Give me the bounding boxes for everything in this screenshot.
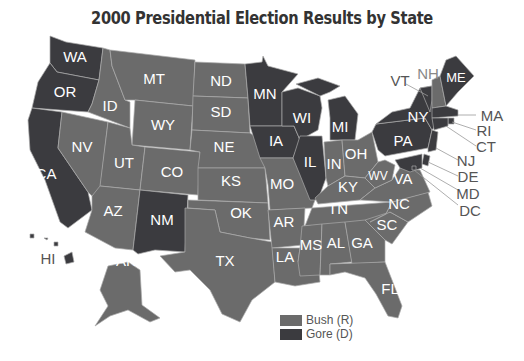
label-WI: WI bbox=[293, 109, 311, 126]
label-NE: NE bbox=[214, 138, 235, 155]
label-NY: NY bbox=[408, 108, 429, 125]
label-MS: MS bbox=[300, 236, 323, 253]
state-DC bbox=[412, 166, 416, 170]
label-IN: IN bbox=[327, 155, 342, 172]
label-WA: WA bbox=[63, 48, 87, 65]
label-NC: NC bbox=[388, 195, 410, 212]
label-TN: TN bbox=[328, 200, 348, 217]
state-MA bbox=[432, 106, 458, 118]
label-AZ: AZ bbox=[103, 202, 122, 219]
label-CO: CO bbox=[161, 163, 184, 180]
label-MT: MT bbox=[143, 70, 165, 87]
legend-item-gore: Gore (D) bbox=[280, 327, 353, 341]
state-RI bbox=[448, 118, 454, 124]
label-ID: ID bbox=[103, 97, 118, 114]
label-NV: NV bbox=[72, 138, 93, 155]
label-KS: KS bbox=[221, 172, 241, 189]
label-MN: MN bbox=[253, 85, 276, 102]
label-OK: OK bbox=[230, 204, 252, 221]
label-FL: FL bbox=[381, 280, 399, 297]
label-ND: ND bbox=[210, 72, 232, 89]
state-DE bbox=[422, 154, 430, 166]
legend-swatch-gore bbox=[280, 329, 302, 340]
label-NJ: NJ bbox=[457, 152, 475, 169]
label-DE: DE bbox=[458, 168, 479, 185]
label-CT: CT bbox=[476, 138, 496, 155]
legend-swatch-bush bbox=[280, 315, 302, 326]
label-OH: OH bbox=[345, 145, 368, 162]
label-SD: SD bbox=[211, 103, 232, 120]
label-IL: IL bbox=[304, 153, 317, 170]
label-PA: PA bbox=[394, 132, 413, 149]
legend: Bush (R) Gore (D) bbox=[280, 313, 353, 341]
legend-label-bush: Bush (R) bbox=[306, 313, 353, 327]
label-GA: GA bbox=[351, 234, 373, 251]
label-VT: VT bbox=[390, 72, 409, 89]
label-OR: OR bbox=[54, 83, 77, 100]
label-NH: NH bbox=[417, 65, 439, 82]
label-AK: AK bbox=[116, 252, 136, 269]
label-WV: WV bbox=[368, 169, 387, 183]
label-VA: VA bbox=[394, 170, 413, 187]
label-LA: LA bbox=[276, 248, 294, 265]
label-TX: TX bbox=[215, 252, 234, 269]
label-AR: AR bbox=[274, 213, 295, 230]
label-KY: KY bbox=[338, 178, 358, 195]
us-map: WA OR CA ID NV MT WY UT CO AZ NM ND SD N… bbox=[0, 0, 524, 361]
label-ME: ME bbox=[446, 70, 466, 85]
label-NM: NM bbox=[150, 211, 173, 228]
legend-label-gore: Gore (D) bbox=[306, 327, 353, 341]
label-DC: DC bbox=[459, 202, 481, 219]
label-MO: MO bbox=[270, 175, 294, 192]
label-WY: WY bbox=[151, 116, 175, 133]
label-MI: MI bbox=[332, 118, 349, 135]
label-RI: RI bbox=[477, 122, 492, 139]
label-CA: CA bbox=[36, 165, 57, 182]
label-AL: AL bbox=[327, 234, 345, 251]
legend-item-bush: Bush (R) bbox=[280, 313, 353, 327]
state-AK bbox=[95, 262, 160, 326]
label-SC: SC bbox=[377, 216, 398, 233]
label-HI: HI bbox=[41, 250, 56, 267]
label-MD: MD bbox=[456, 185, 479, 202]
state-CT bbox=[432, 118, 448, 130]
label-IA: IA bbox=[269, 132, 283, 149]
label-UT: UT bbox=[114, 154, 134, 171]
